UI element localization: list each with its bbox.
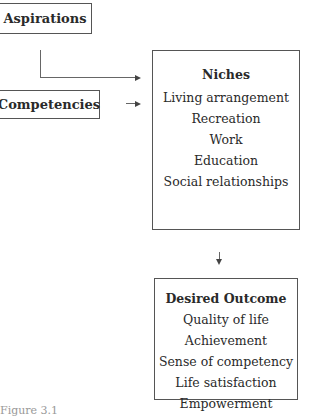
niches-item: Work (153, 129, 299, 150)
aspirations-connector-horizontal (40, 77, 135, 78)
desired-outcome-title: Desired Outcome (155, 289, 297, 309)
aspirations-connector-vertical (40, 50, 41, 78)
arrow-right-icon (135, 101, 141, 107)
niches-item: Recreation (153, 108, 299, 129)
aspirations-box: Aspirations (0, 3, 92, 34)
figure-caption: Figure 3.1 (0, 404, 58, 417)
niches-title: Niches (153, 62, 299, 87)
competencies-box: Competencies (0, 90, 100, 119)
niches-item: Education (153, 150, 299, 171)
niches-item: Living arrangement (153, 87, 299, 108)
desired-outcome-item: Sense of competency (155, 351, 297, 372)
desired-outcome-box: Desired Outcome Quality of life Achievem… (154, 278, 298, 400)
desired-outcome-item: Life satisfaction (155, 372, 297, 393)
desired-outcome-item: Empowerment (155, 393, 297, 414)
competencies-label: Competencies (0, 97, 100, 112)
niches-item: Social relationships (153, 171, 299, 192)
competencies-connector (126, 103, 135, 104)
desired-outcome-item: Achievement (155, 330, 297, 351)
arrow-down-icon (216, 259, 222, 265)
arrow-right-icon (135, 75, 141, 81)
niches-box: Niches Living arrangement Recreation Wor… (152, 50, 300, 230)
aspirations-label: Aspirations (3, 11, 86, 26)
desired-outcome-item: Quality of life (155, 309, 297, 330)
